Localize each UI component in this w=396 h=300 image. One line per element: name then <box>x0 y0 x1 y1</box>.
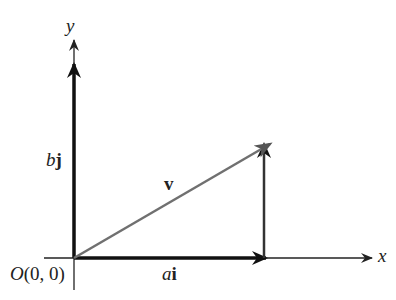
ai-label: ai <box>162 264 177 283</box>
y-axis-label: y <box>66 16 74 35</box>
ai-unit: i <box>172 263 177 284</box>
origin-letter: O <box>10 263 24 284</box>
v-vector <box>74 144 270 258</box>
ai-scalar: a <box>162 263 172 284</box>
bj-label: bj <box>46 150 62 169</box>
bj-scalar: b <box>46 149 56 170</box>
v-label: v <box>164 174 174 193</box>
x-axis-label: x <box>378 246 386 265</box>
origin-label: O(0, 0) <box>10 264 65 283</box>
vector-diagram: y x O(0, 0) bj ai v <box>0 0 396 300</box>
origin-coords: (0, 0) <box>24 263 65 284</box>
bj-unit: j <box>56 149 62 170</box>
